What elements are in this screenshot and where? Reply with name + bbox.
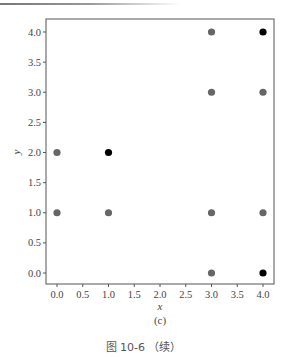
data-point-black [259, 269, 266, 276]
x-axis-label: x [157, 300, 163, 312]
y-tick-label: 2.0 [28, 147, 41, 158]
data-point-gray [105, 209, 112, 216]
data-point-gray [259, 209, 266, 216]
y-tick-label: 1.0 [28, 207, 41, 218]
data-point-gray [208, 209, 215, 216]
data-point-gray [53, 209, 60, 216]
y-tick-label: 3.0 [28, 87, 41, 98]
data-point-gray [208, 89, 215, 96]
y-tick-label: 0.0 [28, 268, 41, 279]
y-tick-label: 4.0 [28, 27, 41, 38]
data-point-black [105, 149, 112, 156]
x-tick-label: 0.0 [50, 289, 63, 300]
subfigure-label: (c) [154, 314, 167, 327]
data-point-gray [208, 269, 215, 276]
plot-frame [46, 19, 274, 284]
x-tick-label: 3.5 [231, 289, 244, 300]
y-tick-label: 0.5 [28, 237, 41, 248]
x-tick-label: 2.5 [179, 289, 192, 300]
x-tick-label: 0.5 [76, 289, 89, 300]
y-tick-label: 2.5 [28, 117, 41, 128]
axes-frame [46, 19, 274, 284]
figure-caption: 图 10-6 （续） [0, 338, 287, 354]
data-points [53, 28, 266, 276]
axis-ticks: 0.00.51.01.52.02.53.03.54.00.00.51.01.52… [28, 27, 270, 301]
y-tick-label: 3.5 [28, 57, 41, 68]
x-tick-label: 1.0 [102, 289, 115, 300]
x-tick-label: 2.0 [153, 289, 166, 300]
x-tick-label: 4.0 [256, 289, 269, 300]
x-tick-label: 3.0 [205, 289, 218, 300]
y-axis-label: y [10, 149, 22, 155]
scatter-chart: 0.00.51.01.52.02.53.03.54.00.00.51.01.52… [0, 0, 287, 357]
data-point-gray [259, 89, 266, 96]
data-point-black [259, 28, 266, 35]
data-point-gray [53, 149, 60, 156]
data-point-gray [208, 28, 215, 35]
x-tick-label: 1.5 [128, 289, 141, 300]
y-tick-label: 1.5 [28, 177, 41, 188]
